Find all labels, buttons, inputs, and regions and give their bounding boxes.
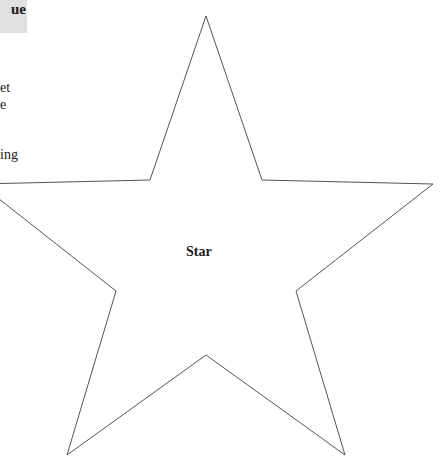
star-label: Star <box>186 244 212 260</box>
star-outline[interactable] <box>0 16 433 455</box>
star-shape[interactable] <box>0 0 446 460</box>
